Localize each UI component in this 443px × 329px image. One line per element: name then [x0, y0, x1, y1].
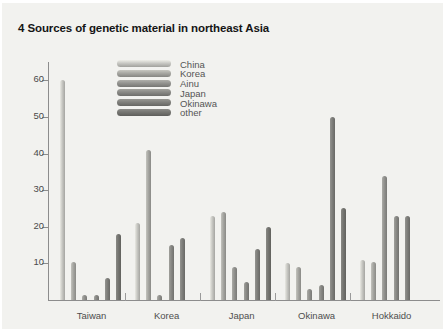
y-tick-label: 40 [33, 147, 44, 158]
group-separator-korea [125, 293, 126, 301]
bar-okinawa-china [285, 263, 290, 300]
bar-okinawa-other [341, 208, 346, 300]
bar-okinawa-okinawa [330, 117, 335, 300]
legend-item-ainu[interactable]: Ainu [117, 79, 239, 89]
bar-japan-japan [244, 282, 249, 300]
bar-japan-okinawa [255, 249, 260, 300]
y-tick-label: 50 [33, 110, 44, 121]
bar-japan-korea [221, 212, 226, 300]
bar-korea-japan [169, 245, 174, 300]
bar-taiwan-china [60, 80, 65, 300]
legend-swatch-korea [117, 70, 171, 77]
bar-japan-china [210, 216, 215, 300]
bar-hokkaido-okinawa [405, 216, 410, 300]
legend-label: other [180, 107, 202, 118]
bar-taiwan-korea [71, 262, 76, 300]
legend-item-korea[interactable]: Korea [117, 69, 239, 79]
bar-hokkaido-japan [394, 216, 399, 300]
bar-hokkaido-ainu [382, 176, 387, 300]
chart-figure: 4 Sources of genetic material in northea… [0, 0, 443, 329]
group-label-korea: Korea [154, 310, 179, 321]
group-label-japan: Japan [229, 310, 255, 321]
legend-item-china[interactable]: China [117, 59, 239, 69]
y-tick-label: 10 [33, 256, 44, 267]
bar-hokkaido-china [360, 260, 365, 300]
bar-korea-okinawa [180, 238, 185, 300]
bar-japan-other [266, 227, 271, 300]
group-separator-hokkaido [350, 293, 351, 301]
bar-taiwan-japan [94, 295, 99, 300]
group-separator-japan [200, 293, 201, 301]
y-tick-label: 30 [33, 183, 44, 194]
bar-okinawa-japan [319, 285, 324, 300]
legend-swatch-okinawa [117, 99, 171, 106]
group-label-hokkaido: Hokkaido [372, 310, 412, 321]
bar-okinawa-ainu [307, 289, 312, 300]
legend-swatch-other [117, 109, 171, 116]
plot-area: 102030405060 TaiwanKoreaJapanOkinawaHokk… [48, 62, 440, 300]
legend-item-japan[interactable]: Japan [117, 88, 239, 98]
group-separator-okinawa [275, 293, 276, 301]
bar-japan-ainu [232, 267, 237, 300]
x-axis-line [48, 300, 440, 301]
group-label-okinawa: Okinawa [298, 310, 335, 321]
bar-taiwan-other [116, 234, 121, 300]
bar-taiwan-ainu [82, 295, 87, 300]
legend: ChinaKoreaAinuJapanOkinawaother [117, 59, 239, 118]
bar-korea-korea [146, 150, 151, 300]
bar-hokkaido-korea [371, 262, 376, 300]
legend-item-other[interactable]: other [117, 108, 239, 118]
page-title: 4 Sources of genetic material in northea… [18, 22, 269, 34]
legend-item-okinawa[interactable]: Okinawa [117, 98, 239, 108]
bar-taiwan-okinawa [105, 278, 110, 300]
y-tick-label: 60 [33, 73, 44, 84]
bar-okinawa-korea [296, 267, 301, 300]
legend-swatch-japan [117, 89, 171, 96]
y-tick-label: 20 [33, 220, 44, 231]
group-label-taiwan: Taiwan [77, 310, 107, 321]
legend-swatch-ainu [117, 80, 171, 87]
bar-korea-ainu [157, 295, 162, 300]
legend-swatch-china [117, 60, 171, 67]
bar-korea-china [135, 223, 140, 300]
